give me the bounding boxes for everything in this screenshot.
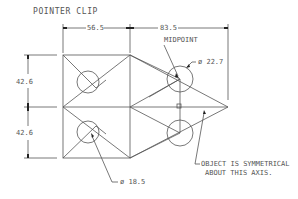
callout-large-hole: ø 22.7 (198, 58, 223, 66)
callout-symmetry-line2: ABOUT THIS AXIS. (205, 169, 272, 177)
callout-midpoint: MIDPOINT (164, 36, 198, 44)
callout-small-hole: ø 18.5 (120, 178, 145, 186)
dimension-left-lower: 42.6 (16, 129, 33, 137)
dimension-top-right: 83.5 (160, 24, 177, 32)
dimension-left-upper: 42.6 (16, 78, 33, 86)
callout-symmetry-line1: OBJECT IS SYMMETRICAL (201, 160, 290, 168)
dimension-top-left: 56.5 (87, 24, 104, 32)
